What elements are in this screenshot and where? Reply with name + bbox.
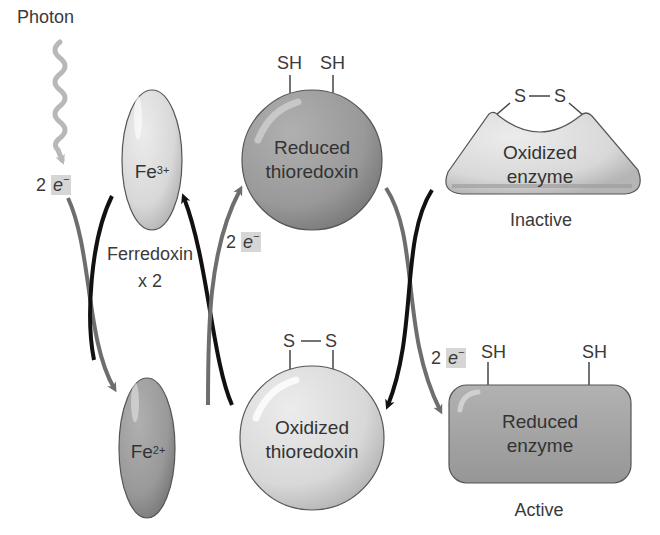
enzyme-s-left: S [514,87,526,105]
photon-label: Photon [17,8,74,26]
photon-wave-arrow [55,42,65,160]
diagram: Photon 2 e− 2 e− 2 e− Fe3+ Fe2+ Ferredox… [0,0,660,535]
inactive-state-label: Inactive [510,211,572,229]
ferredoxin-label: Ferredoxin [107,245,193,263]
oxidized-thioredoxin-label: Oxidized thioredoxin [266,416,359,464]
enzyme-s-right: S [554,87,566,105]
thioredoxin-sh-left: SH [277,54,302,72]
fe3-label: Fe3+ [135,160,170,184]
thioredoxin-enzyme-arrows [386,188,440,410]
ferredoxin-multiplier: x 2 [138,272,162,290]
enzyme-sh-left: SH [481,343,506,361]
active-state-label: Active [514,501,563,519]
thioredoxin-sh-right: SH [320,54,345,72]
fe2-label: Fe2+ [131,440,166,464]
reduced-enzyme-label: Reduced enzyme [502,410,578,458]
electron-label-from-photon: 2 e− [36,176,71,194]
thioredoxin-s-left: S [283,332,295,350]
enzyme-sh-right: SH [582,343,607,361]
electron-label-to-thioredoxin: 2 e− [226,233,261,251]
reduced-thioredoxin-label: Reduced thioredoxin [266,136,359,184]
electron-label-to-enzyme: 2 e− [431,349,466,367]
thioredoxin-s-right: S [325,332,337,350]
oxidized-enzyme-label: Oxidized enzyme [503,141,577,189]
